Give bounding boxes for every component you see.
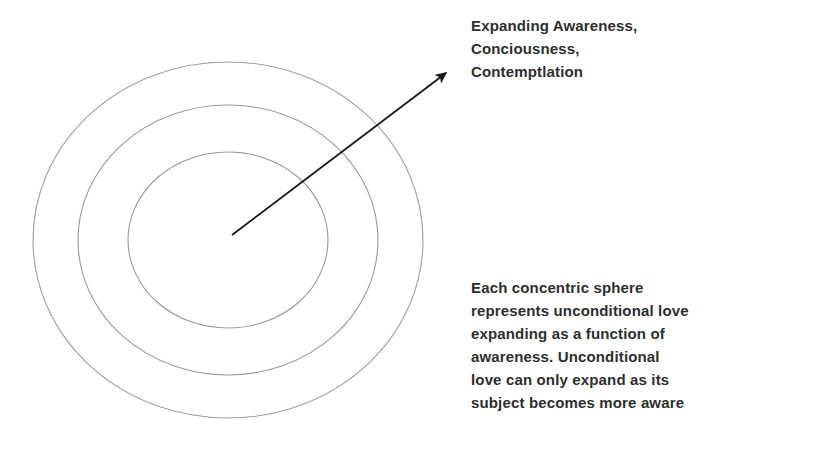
annotation-description: Each concentric sphere represents uncond… — [471, 276, 811, 414]
inner-sphere-circle — [128, 152, 328, 328]
expansion-arrow — [232, 73, 446, 235]
outer-sphere-circle — [33, 62, 423, 418]
diagram-canvas: Expanding Awareness, Conciousness, Conte… — [0, 0, 836, 460]
middle-sphere-circle — [78, 105, 378, 375]
annotation-expanding-awareness: Expanding Awareness, Conciousness, Conte… — [471, 14, 801, 83]
